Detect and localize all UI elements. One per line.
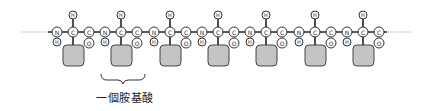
svg-text:H: H — [264, 12, 268, 18]
svg-text:O: O — [329, 40, 334, 47]
svg-text:N: N — [55, 29, 60, 36]
carbonyl-oxygen: O — [229, 38, 239, 48]
alpha-hydrogen: H — [359, 11, 367, 19]
amide-hydrogen: H — [295, 38, 303, 46]
svg-text:H: H — [297, 39, 301, 45]
svg-text:N: N — [200, 29, 205, 36]
polypeptide-diagram: HNHCOCHNHCOCHNHCOCHNHCOCHNHCOCHNHCOCHNHC… — [0, 0, 431, 111]
carbonyl-carbon-atom: C — [181, 27, 191, 37]
alpha-carbon-atom: C — [165, 27, 175, 37]
amino-acid-label: 一個胺基酸 — [96, 89, 154, 105]
alpha-hydrogen: H — [166, 11, 174, 19]
svg-text:C: C — [135, 29, 139, 36]
svg-text:H: H — [119, 12, 123, 18]
alpha-carbon-atom: C — [261, 27, 271, 37]
nitrogen-atom: N — [197, 27, 207, 37]
svg-text:C: C — [168, 29, 172, 36]
nitrogen-atom: N — [342, 27, 352, 37]
carbonyl-oxygen: O — [374, 38, 384, 48]
alpha-carbon-atom: C — [213, 27, 223, 37]
svg-text:N: N — [248, 29, 253, 36]
carbonyl-oxygen: O — [277, 38, 287, 48]
side-chain-r-group — [256, 45, 277, 66]
svg-text:O: O — [184, 40, 189, 47]
side-chain-r-group — [111, 45, 132, 66]
nitrogen-atom: N — [149, 27, 159, 37]
svg-text:H: H — [248, 39, 252, 45]
nitrogen-atom: N — [52, 27, 62, 37]
svg-text:O: O — [377, 40, 382, 47]
svg-text:H: H — [55, 39, 59, 45]
svg-text:O: O — [232, 40, 237, 47]
side-chain-r-group — [63, 45, 84, 66]
carbonyl-carbon-atom: C — [132, 27, 142, 37]
residue-brace — [101, 74, 145, 84]
svg-text:C: C — [184, 29, 188, 36]
side-chain-r-group — [160, 45, 181, 66]
svg-text:H: H — [168, 12, 172, 18]
side-chains — [63, 45, 374, 66]
alpha-carbon-atom: C — [358, 27, 368, 37]
alpha-hydrogen: H — [69, 11, 77, 19]
nitrogen-atom: N — [245, 27, 255, 37]
carbonyl-carbon-atom: C — [84, 27, 94, 37]
alpha-hydrogen: H — [262, 11, 270, 19]
svg-text:H: H — [313, 12, 317, 18]
svg-text:C: C — [377, 29, 381, 36]
alpha-carbon-atom: C — [310, 27, 320, 37]
svg-text:H: H — [152, 39, 156, 45]
svg-text:C: C — [71, 29, 75, 36]
nitrogen-atom: N — [294, 27, 304, 37]
amide-hydrogen: H — [198, 38, 206, 46]
svg-text:O: O — [87, 40, 92, 47]
carbonyl-oxygen: O — [84, 38, 94, 48]
side-chain-r-group — [305, 45, 326, 66]
svg-text:H: H — [345, 39, 349, 45]
carbonyl-carbon-atom: C — [374, 27, 384, 37]
svg-text:H: H — [361, 12, 365, 18]
side-chain-r-group — [353, 45, 374, 66]
svg-text:C: C — [216, 29, 220, 36]
svg-text:H: H — [200, 39, 204, 45]
carbonyl-oxygen: O — [132, 38, 142, 48]
svg-text:C: C — [119, 29, 123, 36]
svg-text:H: H — [71, 12, 75, 18]
svg-text:N: N — [103, 29, 108, 36]
svg-text:C: C — [280, 29, 284, 36]
alpha-hydrogen: H — [117, 11, 125, 19]
svg-text:C: C — [87, 29, 91, 36]
svg-text:N: N — [152, 29, 157, 36]
svg-text:N: N — [297, 29, 302, 36]
carbonyl-carbon-atom: C — [229, 27, 239, 37]
svg-text:C: C — [361, 29, 365, 36]
amide-hydrogen: H — [343, 38, 351, 46]
svg-text:H: H — [103, 39, 107, 45]
svg-text:C: C — [232, 29, 236, 36]
alpha-carbon-atom: C — [68, 27, 78, 37]
svg-text:N: N — [345, 29, 350, 36]
amide-hydrogen: H — [53, 38, 61, 46]
nitrogen-atom: N — [100, 27, 110, 37]
alpha-hydrogen: H — [311, 11, 319, 19]
amide-hydrogen: H — [150, 38, 158, 46]
svg-text:O: O — [280, 40, 285, 47]
side-chain-r-group — [208, 45, 229, 66]
alpha-hydrogen: H — [214, 11, 222, 19]
alpha-carbon-atom: C — [116, 27, 126, 37]
amide-hydrogen: H — [101, 38, 109, 46]
carbonyl-oxygen: O — [181, 38, 191, 48]
svg-text:H: H — [216, 12, 220, 18]
svg-text:C: C — [313, 29, 317, 36]
backbone-chain: HNHCOCHNHCOCHNHCOCHNHCOCHNHCOCHNHCOCHNHC… — [22, 11, 412, 66]
svg-text:C: C — [329, 29, 333, 36]
amide-hydrogen: H — [246, 38, 254, 46]
svg-text:O: O — [135, 40, 140, 47]
carbonyl-carbon-atom: C — [277, 27, 287, 37]
svg-text:C: C — [264, 29, 268, 36]
carbonyl-oxygen: O — [326, 38, 336, 48]
carbonyl-carbon-atom: C — [326, 27, 336, 37]
